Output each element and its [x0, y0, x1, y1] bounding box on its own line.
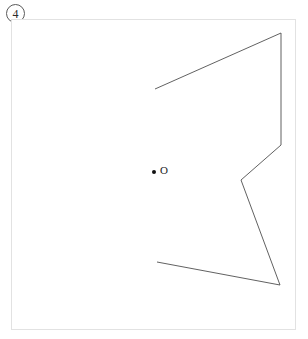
figure-frame — [11, 19, 296, 330]
problem-number-text: 4 — [13, 8, 19, 20]
point-label-o: O — [160, 165, 168, 176]
figure-page: 4 O — [0, 0, 308, 339]
